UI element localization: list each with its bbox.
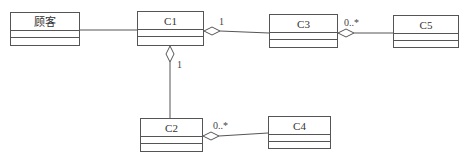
class-name: C5 — [394, 16, 458, 34]
class-attributes — [269, 135, 330, 142]
aggregation-diamond-icon — [338, 29, 354, 37]
class-box-c5: C5 — [393, 15, 459, 48]
class-attributes — [141, 137, 202, 144]
class-attributes — [270, 33, 337, 40]
class-operations — [138, 37, 203, 44]
class-box-c1: C1 — [137, 11, 204, 46]
class-name: C2 — [141, 119, 202, 137]
multiplicity-c3-c5: 0..* — [344, 18, 359, 28]
class-operations — [11, 38, 79, 45]
class-box-customer: 顾客 — [10, 12, 80, 46]
multiplicity-c2-c4: 0..* — [213, 121, 228, 131]
multiplicity-c1-c2: 1 — [177, 60, 182, 70]
aggregation-diamond-icon — [166, 46, 174, 62]
class-operations — [141, 144, 202, 151]
multiplicity-c1-c3: 1 — [219, 17, 224, 27]
class-operations — [270, 40, 337, 47]
aggregation-line-c2-c4 — [219, 133, 268, 136]
class-operations — [394, 41, 458, 48]
uml-class-diagram: 顾客 C1 C3 C5 C2 C4 1 0..* 1 0..* — [0, 0, 466, 167]
aggregation-line-c1-c3 — [220, 31, 269, 33]
class-name: C4 — [269, 117, 330, 135]
class-attributes — [138, 30, 203, 37]
class-box-c4: C4 — [268, 116, 331, 149]
class-name: C3 — [270, 15, 337, 33]
aggregation-diamond-icon — [203, 132, 219, 140]
class-box-c3: C3 — [269, 14, 338, 48]
class-name: C1 — [138, 12, 203, 30]
class-name: 顾客 — [11, 13, 79, 31]
aggregation-diamond-icon — [204, 27, 220, 35]
class-attributes — [11, 31, 79, 38]
class-attributes — [394, 34, 458, 41]
class-operations — [269, 142, 330, 149]
class-box-c2: C2 — [140, 118, 203, 152]
